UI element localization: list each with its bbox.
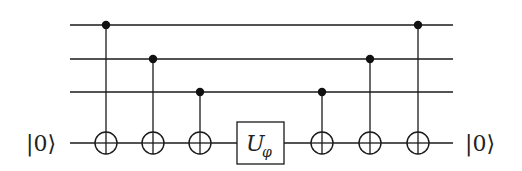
- cnot-gate-3: [189, 88, 211, 154]
- control-dot: [318, 88, 326, 96]
- cnot-gate-2: [142, 55, 164, 154]
- gate-subscript: φ: [262, 144, 272, 160]
- control-dot: [414, 21, 422, 29]
- quantum-circuit: U φ |0⟩ |0⟩: [0, 0, 522, 171]
- control-dot: [196, 88, 204, 96]
- control-dot: [366, 55, 374, 63]
- cnot-gate-6: [407, 21, 429, 154]
- control-dot: [149, 55, 157, 63]
- control-dot: [102, 21, 110, 29]
- cnot-gate-5: [359, 55, 381, 154]
- u-phi-gate: U φ: [237, 122, 284, 164]
- cnot-gate-1: [95, 21, 117, 154]
- cnot-gate-4: [311, 88, 333, 154]
- input-ket-label: |0⟩: [26, 131, 56, 157]
- output-ket-label: |0⟩: [465, 131, 495, 157]
